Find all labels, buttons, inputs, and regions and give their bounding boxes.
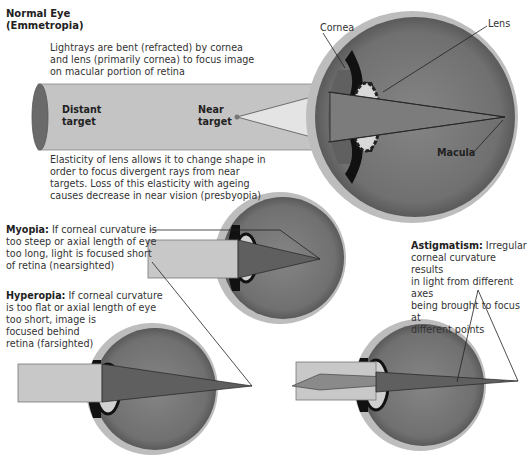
caption-line: focused behind xyxy=(6,326,163,338)
caption-line: too steep or axial length of eye xyxy=(6,236,157,248)
desc-line: Lightrays are bent (refracted) by cornea xyxy=(50,42,254,54)
myopia-eye xyxy=(148,192,346,324)
caption-line: in light from different axes xyxy=(411,276,530,300)
caption-line: too short, image is xyxy=(6,314,163,326)
astigmatism-caption: Astigmatism: Irregular corneal curvature… xyxy=(411,240,530,336)
desc-line: order to focus divergent rays from near xyxy=(50,166,266,178)
near-target-label: Near target xyxy=(198,104,232,128)
myopia-term: Myopia: xyxy=(6,224,49,235)
caption-line: is too flat or axial length of eye xyxy=(6,302,163,314)
caption-line: too long, light is focused short xyxy=(6,248,157,260)
caption-line: of retina (nearsighted) xyxy=(6,260,157,272)
caption-line: Irregular xyxy=(483,240,527,251)
desc-line: and lens (primarily cornea) to focus ima… xyxy=(50,54,254,66)
desc-line: targets. Loss of this elasticity with ag… xyxy=(50,178,266,190)
caption-line: being brought to focus at xyxy=(411,300,530,324)
normal-eye-title: Normal Eye (Emmetropia) xyxy=(6,8,84,32)
caption-line: different points xyxy=(411,324,530,336)
macula-label: Macula xyxy=(437,147,475,159)
distant-l1: Distant xyxy=(62,104,101,116)
astigmatism-term: Astigmatism: xyxy=(411,240,483,251)
cornea-label: Cornea xyxy=(320,22,354,34)
near-l2: target xyxy=(198,116,232,128)
normal-desc-bottom: Elasticity of lens allows it to change s… xyxy=(50,154,266,202)
title-line-1: Normal Eye xyxy=(6,8,84,20)
caption-line: corneal curvature results xyxy=(411,252,530,276)
desc-line: Elasticity of lens allows it to change s… xyxy=(50,154,266,166)
hyperopia-caption: Hyperopia: If corneal curvature is too f… xyxy=(6,290,163,350)
lens-label: Lens xyxy=(488,18,510,30)
desc-line: on macular portion of retina xyxy=(50,66,254,78)
caption-line: If corneal curvature xyxy=(65,290,162,301)
title-line-2: (Emmetropia) xyxy=(6,20,84,32)
hyperopia-term: Hyperopia: xyxy=(6,290,65,301)
near-l1: Near xyxy=(198,104,232,116)
caption-line: If corneal curvature is xyxy=(49,224,157,235)
myopia-caption: Myopia: If corneal curvature is too stee… xyxy=(6,224,157,272)
desc-line: causes decrease in near vision (presbyop… xyxy=(50,190,266,202)
distant-target-label: Distant target xyxy=(62,104,101,128)
normal-desc-top: Lightrays are bent (refracted) by cornea… xyxy=(50,42,254,78)
caption-line: retina (farsighted) xyxy=(6,338,163,350)
distant-l2: target xyxy=(62,116,101,128)
